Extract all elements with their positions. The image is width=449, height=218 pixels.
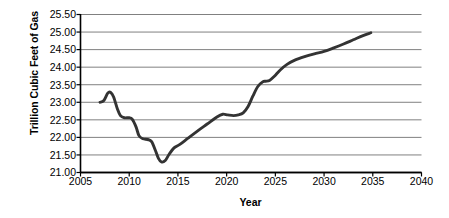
data-series-line [100, 33, 371, 162]
chart-figure: Trillion Cubic Feet of Gas Year 21.0021.… [0, 0, 449, 218]
axis-lines [81, 14, 422, 173]
plot-area [0, 0, 449, 218]
axis-ticks [77, 15, 422, 177]
gridlines [81, 15, 422, 173]
